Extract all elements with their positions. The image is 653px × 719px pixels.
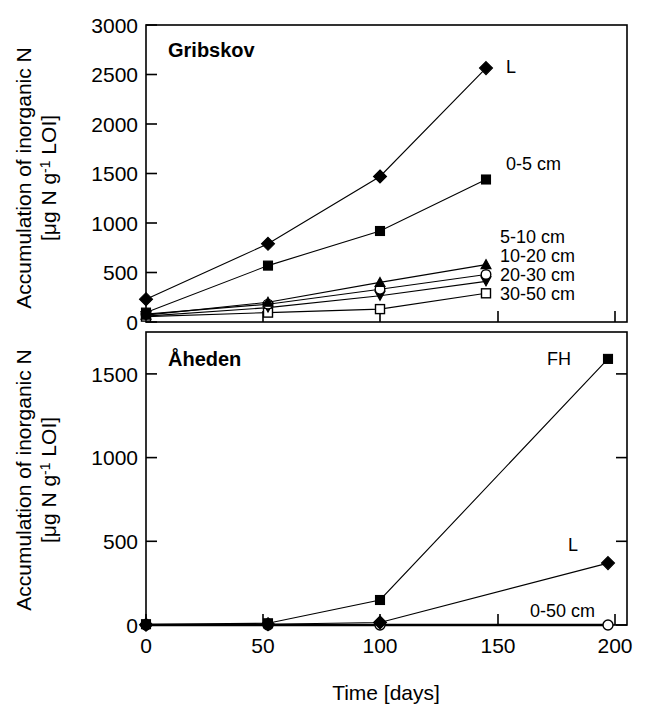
top-line-30-50cm: [146, 293, 486, 316]
accumulation-of-inorganic-n-figure: 3000 2500 2000 1500 1000 500 0 Gribskov: [0, 0, 653, 719]
top-line-l: [146, 68, 486, 299]
bottom-y-axis-title-line1: Accumulation of inorganic N: [12, 349, 35, 610]
bottom-plot-frame: [146, 332, 627, 625]
x-axis-title: Time [days]: [332, 681, 440, 704]
bottom-series-fh: FH: [142, 349, 613, 629]
bottom-ytick-1000: 1000: [91, 446, 138, 469]
top-ytick-2000: 2000: [91, 113, 138, 136]
top-ytick-2500: 2500: [91, 63, 138, 86]
top-ytick-1500: 1500: [91, 162, 138, 185]
marker-filled-square: [482, 175, 491, 184]
bottom-xtick-50: 50: [251, 634, 274, 657]
bottom-y-axis-title-group: Accumulation of inorganic N [μg N g-1 LO…: [12, 349, 60, 610]
figure-container: 3000 2500 2000 1500 1000 500 0 Gribskov: [0, 0, 653, 719]
top-panel-title: Gribskov: [168, 39, 256, 61]
top-y-ticks: [146, 25, 157, 322]
bottom-series-label-0-50cm: 0-50 cm: [530, 601, 595, 621]
marker-filled-square: [264, 261, 273, 270]
bottom-ytick-500: 500: [103, 530, 138, 553]
top-series-label-30-50cm: 30-50 cm: [500, 284, 575, 304]
bottom-line-fh: [146, 359, 608, 624]
top-panel-gribskov: 3000 2500 2000 1500 1000 500 0 Gribskov: [91, 14, 627, 334]
top-line-0-5cm: [146, 180, 486, 313]
marker-filled-square: [376, 227, 385, 236]
marker-filled-diamond: [140, 293, 153, 306]
top-ytick-0: 0: [126, 311, 138, 334]
bottom-xtick-150: 150: [480, 634, 515, 657]
marker-open-square: [482, 289, 491, 298]
marker-filled-square: [142, 308, 151, 317]
top-series-l: L: [140, 57, 517, 306]
bottom-xtick-200: 200: [597, 634, 632, 657]
bottom-series-label-fh: FH: [547, 349, 571, 369]
bottom-y-axis-title-line2: [μg N g-1 LOI]: [37, 417, 60, 543]
bottom-y-ticks: [146, 374, 627, 625]
top-series-label-20-30cm: 20-30 cm: [500, 265, 575, 285]
marker-filled-square: [142, 620, 151, 629]
top-y-axis-title-line1: Accumulation of inorganic N: [12, 47, 35, 308]
top-series-label-l: L: [506, 57, 516, 77]
bottom-series-label-l: L: [568, 535, 578, 555]
bottom-panel-title: Åheden: [168, 347, 241, 370]
bottom-xtick-100: 100: [362, 634, 397, 657]
top-ytick-1000: 1000: [91, 212, 138, 235]
top-y-axis-title-line2: [μg N g-1 LOI]: [37, 115, 60, 241]
bottom-ytick-1500: 1500: [91, 363, 138, 386]
top-series-label-10-20cm: 10-20 cm: [500, 246, 575, 266]
marker-filled-diamond: [602, 557, 615, 570]
marker-filled-square: [264, 619, 273, 628]
marker-open-square: [376, 305, 385, 314]
top-series-label-5-10cm: 5-10 cm: [500, 227, 565, 247]
top-y-axis-title-group: Accumulation of inorganic N [μg N g-1 LO…: [12, 47, 60, 308]
top-line-10-20cm: [146, 275, 486, 315]
top-series-label-0-5cm: 0-5 cm: [506, 154, 561, 174]
marker-filled-square: [376, 596, 385, 605]
marker-open-circle: [481, 270, 491, 280]
bottom-ytick-0: 0: [126, 614, 138, 637]
top-line-5-10cm: [146, 265, 486, 316]
marker-open-circle: [603, 620, 613, 630]
marker-filled-square: [604, 354, 613, 363]
top-ytick-3000: 3000: [91, 14, 138, 37]
top-ytick-500: 500: [103, 261, 138, 284]
marker-filled-triangle-up: [481, 260, 491, 269]
bottom-xtick-0: 0: [140, 634, 152, 657]
bottom-panel-aheden: 1500 1000 500 0 0 50 100 150 200 Åheden: [91, 332, 632, 657]
marker-filled-diamond: [262, 237, 275, 250]
